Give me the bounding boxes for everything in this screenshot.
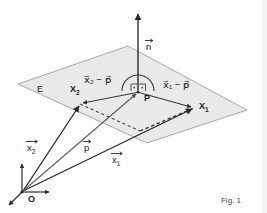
point-label-O: O xyxy=(28,194,35,204)
position-vector-x2-label: x2 xyxy=(27,142,36,155)
position-vector-p-label-group: p xyxy=(83,140,91,153)
axis-down-left xyxy=(9,192,22,205)
plane-label-E: E xyxy=(37,84,43,94)
origin-dot xyxy=(21,191,24,194)
x2-minus-p-label-group: x⃗₂ − p⃗ xyxy=(84,74,111,85)
x1-minus-p-label-group: x⃗₁ − p⃗ xyxy=(163,79,189,90)
right-angle-left-dot xyxy=(133,87,135,89)
point-label-X1-sub: 1 xyxy=(205,106,209,113)
pv-x1-sub: 1 xyxy=(117,160,121,167)
point-P-dot xyxy=(137,91,140,94)
x1-minus-p-label: x⃗₁ − p⃗ xyxy=(163,79,189,90)
normal-vector-label-group: n xyxy=(145,39,153,52)
figure-container: E P X1 X2 O n x⃗₁ − p⃗ x⃗₂ − p⃗ x1 xyxy=(0,0,267,213)
x2-minus-p-label: x⃗₂ − p⃗ xyxy=(84,74,111,85)
right-edge-strip xyxy=(262,0,267,213)
right-angle-right-dot xyxy=(141,87,143,89)
pv-x2-sub: 2 xyxy=(32,148,36,155)
position-vector-x2-label-group: x2 xyxy=(26,140,37,155)
plane-E xyxy=(18,46,247,143)
position-vector-x1-label: x1 xyxy=(112,154,121,167)
geometry-diagram: E P X1 X2 O n x⃗₁ − p⃗ x⃗₂ − p⃗ x1 xyxy=(0,0,267,213)
normal-vector-label: n xyxy=(146,41,151,52)
position-vector-x1-label-group: x1 xyxy=(111,152,122,167)
figure-caption: Fig. 1 xyxy=(221,196,242,205)
point-label-P: P xyxy=(144,93,150,103)
position-vector-p-label: p xyxy=(84,142,89,153)
point-label-X2-sub: 2 xyxy=(76,89,80,96)
